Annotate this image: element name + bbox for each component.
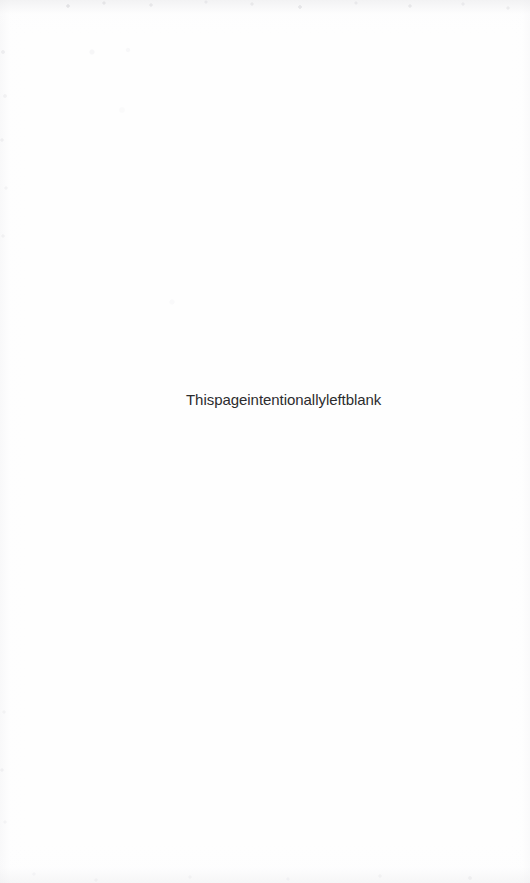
scan-speckle-noise bbox=[0, 0, 530, 883]
scan-edge-shading bbox=[0, 0, 530, 883]
scanned-page: Thispageintentionallyleftblank bbox=[0, 0, 530, 883]
intentionally-blank-notice: Thispageintentionallyleftblank bbox=[186, 391, 381, 408]
